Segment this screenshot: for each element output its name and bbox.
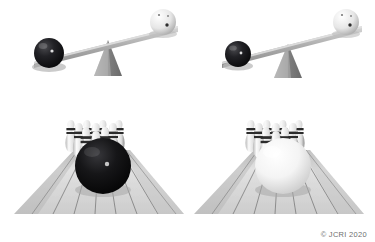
black-ball bbox=[223, 41, 253, 71]
lever-panel-black-ball-far bbox=[8, 4, 188, 100]
white-ball bbox=[149, 9, 177, 38]
black-ball bbox=[32, 38, 66, 72]
white-ball bbox=[255, 138, 311, 197]
white-ball bbox=[332, 9, 360, 38]
bowling-lane-panel-black-ball bbox=[8, 106, 184, 224]
lever-panel-black-ball-near bbox=[196, 4, 372, 100]
black-ball bbox=[75, 138, 131, 197]
comparison-figure: © JCRI 2020 bbox=[0, 0, 375, 242]
bowling-lane-panel-white-ball bbox=[192, 106, 372, 224]
copyright-credit: © JCRI 2020 bbox=[321, 230, 367, 239]
